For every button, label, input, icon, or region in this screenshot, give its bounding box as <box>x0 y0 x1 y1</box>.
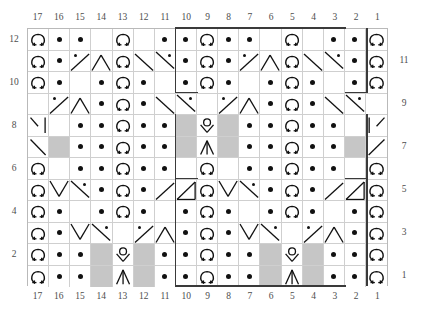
chart-cell-r4-c15[interactable] <box>70 201 91 223</box>
chart-cell-r10-c10[interactable] <box>176 72 197 94</box>
chart-cell-r2-c14[interactable] <box>91 244 112 266</box>
chart-cell-r6-c13[interactable] <box>113 158 134 180</box>
chart-cell-r8-c4[interactable] <box>303 115 324 137</box>
chart-cell-r8-c12[interactable] <box>134 115 155 137</box>
chart-cell-r5-c4[interactable] <box>303 180 324 202</box>
chart-cell-r12-c16[interactable] <box>49 29 70 51</box>
chart-cell-r7-c16[interactable] <box>49 137 70 159</box>
chart-cell-r8-c10[interactable] <box>176 115 197 137</box>
chart-cell-r10-c8[interactable] <box>218 72 239 94</box>
chart-cell-r6-c11[interactable] <box>155 158 176 180</box>
chart-cell-r6-c9[interactable] <box>197 158 218 180</box>
chart-cell-r6-c2[interactable] <box>345 158 366 180</box>
chart-cell-r5-c1[interactable] <box>366 180 387 202</box>
chart-cell-r7-c12[interactable] <box>134 137 155 159</box>
chart-cell-r6-c10[interactable] <box>176 158 197 180</box>
chart-cell-r4-c1[interactable] <box>366 201 387 223</box>
chart-cell-r1-c13[interactable] <box>113 266 134 288</box>
chart-cell-r10-c2[interactable] <box>345 72 366 94</box>
chart-cell-r1-c4[interactable] <box>303 266 324 288</box>
chart-cell-r1-c11[interactable] <box>155 266 176 288</box>
chart-cell-r4-c2[interactable] <box>345 201 366 223</box>
chart-cell-r7-c7[interactable] <box>239 137 260 159</box>
chart-cell-r3-c5[interactable] <box>282 223 303 245</box>
chart-cell-r12-c13[interactable] <box>113 29 134 51</box>
chart-cell-r12-c4[interactable] <box>303 29 324 51</box>
chart-cell-r8-c8[interactable] <box>218 115 239 137</box>
chart-cell-r8-c1[interactable] <box>366 115 387 137</box>
chart-cell-r10-c16[interactable] <box>49 72 70 94</box>
chart-cell-r12-c2[interactable] <box>345 29 366 51</box>
chart-cell-r4-c17[interactable] <box>28 201 49 223</box>
chart-cell-r6-c8[interactable] <box>218 158 239 180</box>
chart-cell-r11-c9[interactable] <box>197 51 218 73</box>
chart-cell-r12-c8[interactable] <box>218 29 239 51</box>
chart-cell-r11-c1[interactable] <box>366 51 387 73</box>
chart-cell-r3-c11[interactable] <box>155 223 176 245</box>
chart-cell-r11-c14[interactable] <box>91 51 112 73</box>
chart-cell-r1-c15[interactable] <box>70 266 91 288</box>
chart-cell-r9-c16[interactable] <box>49 94 70 116</box>
chart-cell-r10-c6[interactable] <box>260 72 281 94</box>
chart-cell-r5-c16[interactable] <box>49 180 70 202</box>
chart-cell-r9-c1[interactable] <box>366 94 387 116</box>
chart-cell-r10-c7[interactable] <box>239 72 260 94</box>
chart-cell-r5-c17[interactable] <box>28 180 49 202</box>
chart-cell-r11-c10[interactable] <box>176 51 197 73</box>
chart-cell-r1-c8[interactable] <box>218 266 239 288</box>
chart-cell-r8-c13[interactable] <box>113 115 134 137</box>
chart-cell-r1-c9[interactable] <box>197 266 218 288</box>
chart-cell-r12-c5[interactable] <box>282 29 303 51</box>
chart-cell-r8-c14[interactable] <box>91 115 112 137</box>
chart-cell-r3-c13[interactable] <box>113 223 134 245</box>
chart-cell-r9-c10[interactable] <box>176 94 197 116</box>
chart-cell-r8-c7[interactable] <box>239 115 260 137</box>
chart-cell-r7-c9[interactable] <box>197 137 218 159</box>
chart-cell-r2-c12[interactable] <box>134 244 155 266</box>
chart-cell-r9-c14[interactable] <box>91 94 112 116</box>
chart-cell-r11-c16[interactable] <box>49 51 70 73</box>
chart-cell-r4-c12[interactable] <box>134 201 155 223</box>
chart-cell-r3-c2[interactable] <box>345 223 366 245</box>
chart-cell-r10-c14[interactable] <box>91 72 112 94</box>
chart-cell-r4-c10[interactable] <box>176 201 197 223</box>
chart-cell-r4-c16[interactable] <box>49 201 70 223</box>
chart-cell-r6-c7[interactable] <box>239 158 260 180</box>
chart-cell-r10-c17[interactable] <box>28 72 49 94</box>
chart-cell-r12-c12[interactable] <box>134 29 155 51</box>
chart-cell-r1-c2[interactable] <box>345 266 366 288</box>
chart-cell-r11-c6[interactable] <box>260 51 281 73</box>
chart-cell-r9-c12[interactable] <box>134 94 155 116</box>
chart-cell-r7-c13[interactable] <box>113 137 134 159</box>
chart-cell-r6-c6[interactable] <box>260 158 281 180</box>
chart-cell-r4-c6[interactable] <box>260 201 281 223</box>
chart-cell-r3-c16[interactable] <box>49 223 70 245</box>
chart-cell-r5-c14[interactable] <box>91 180 112 202</box>
chart-cell-r12-c9[interactable] <box>197 29 218 51</box>
chart-cell-r4-c4[interactable] <box>303 201 324 223</box>
chart-cell-r9-c13[interactable] <box>113 94 134 116</box>
chart-cell-r7-c1[interactable] <box>366 137 387 159</box>
chart-cell-r3-c15[interactable] <box>70 223 91 245</box>
chart-cell-r7-c4[interactable] <box>303 137 324 159</box>
chart-cell-r12-c1[interactable] <box>366 29 387 51</box>
chart-cell-r1-c12[interactable] <box>134 266 155 288</box>
chart-cell-r1-c17[interactable] <box>28 266 49 288</box>
chart-cell-r4-c7[interactable] <box>239 201 260 223</box>
chart-cell-r3-c7[interactable] <box>239 223 260 245</box>
chart-cell-r12-c17[interactable] <box>28 29 49 51</box>
chart-cell-r1-c5[interactable] <box>282 266 303 288</box>
chart-cell-r9-c6[interactable] <box>260 94 281 116</box>
chart-cell-r11-c5[interactable] <box>282 51 303 73</box>
chart-cell-r8-c3[interactable] <box>324 115 345 137</box>
chart-cell-r5-c6[interactable] <box>260 180 281 202</box>
chart-cell-r4-c11[interactable] <box>155 201 176 223</box>
chart-cell-r10-c11[interactable] <box>155 72 176 94</box>
chart-cell-r3-c4[interactable] <box>303 223 324 245</box>
chart-cell-r5-c15[interactable] <box>70 180 91 202</box>
chart-cell-r1-c3[interactable] <box>324 266 345 288</box>
chart-cell-r12-c11[interactable] <box>155 29 176 51</box>
chart-cell-r2-c8[interactable] <box>218 244 239 266</box>
chart-grid[interactable] <box>27 28 388 286</box>
chart-cell-r3-c12[interactable] <box>134 223 155 245</box>
